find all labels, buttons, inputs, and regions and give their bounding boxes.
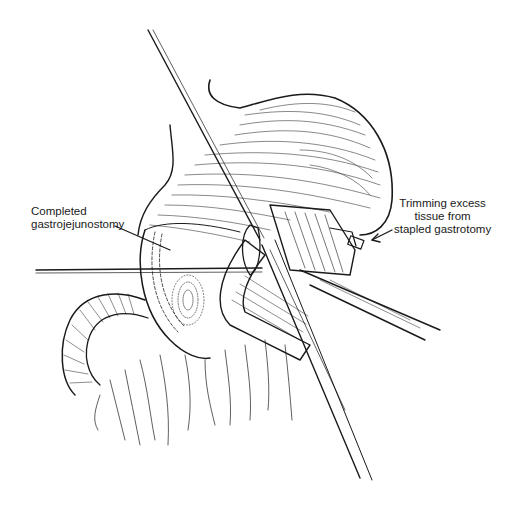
jejunum-loop bbox=[62, 293, 148, 395]
label-left-line1: Completed bbox=[31, 205, 124, 218]
illustration-drawing bbox=[0, 0, 512, 513]
surgical-illustration: Completed gastrojejunostomy Trimming exc… bbox=[0, 0, 512, 513]
label-completed-gastrojejunostomy: Completed gastrojejunostomy bbox=[31, 205, 124, 231]
label-right-line2: tissue from bbox=[394, 210, 491, 223]
label-right-line3: stapled gastrotomy bbox=[394, 223, 491, 236]
label-left-line2: gastrojejunostomy bbox=[31, 218, 124, 231]
probe-lines bbox=[36, 30, 372, 480]
label-right-line1: Trimming excess bbox=[394, 197, 491, 210]
stomach bbox=[138, 80, 392, 358]
label-trimming-excess-tissue: Trimming excess tissue from stapled gast… bbox=[394, 197, 491, 236]
